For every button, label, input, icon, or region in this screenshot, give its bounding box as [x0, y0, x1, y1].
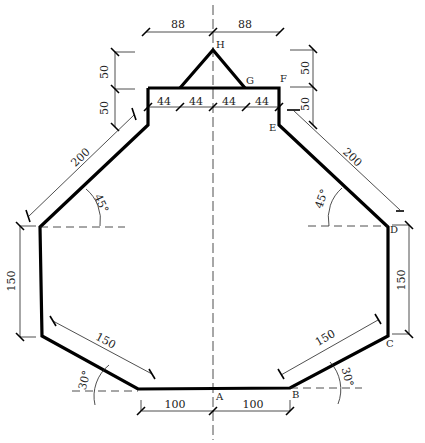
label-C: C: [386, 338, 394, 349]
dim-44-4: 44: [255, 95, 269, 108]
label-B: B: [292, 389, 299, 400]
dim-150-right-slant: 150: [313, 327, 338, 349]
dim-200-left: 200: [69, 146, 93, 170]
label-D: D: [390, 224, 398, 235]
dim-44-3: 44: [222, 95, 236, 108]
label-E: E: [269, 122, 276, 133]
dim-88-left: 88: [171, 18, 185, 31]
dim-44-1: 44: [157, 95, 171, 108]
dim-50-left-upper: 50: [98, 65, 111, 79]
dim-45-left: 45°: [91, 192, 111, 215]
label-H: H: [216, 39, 225, 50]
label-A: A: [215, 391, 224, 402]
technical-drawing: 88 88 50 50 50 50 44 44 44 44 200 45° 20…: [0, 0, 425, 443]
dim-200-right: 200: [340, 146, 364, 170]
dim-150-left-slant: 150: [93, 330, 118, 351]
dim-150-right-vertical: 150: [395, 270, 408, 291]
dim-88-right: 88: [238, 18, 252, 31]
dim-44-2: 44: [189, 95, 203, 108]
dim-100-left: 100: [165, 398, 186, 411]
dim-50-left-lower: 50: [98, 101, 111, 115]
dim-30-right: 30°: [339, 366, 357, 388]
label-F: F: [280, 73, 287, 84]
roof-triangle: [180, 50, 245, 88]
dim-150-left-vertical: 150: [5, 271, 18, 292]
dim-50-right-upper: 50: [299, 61, 312, 75]
label-G: G: [246, 75, 254, 86]
dim-100-right: 100: [243, 398, 264, 411]
dim-45-right: 45°: [312, 187, 331, 210]
dim-30-left: 30°: [76, 369, 94, 391]
dim-50-right-lower: 50: [299, 97, 312, 111]
